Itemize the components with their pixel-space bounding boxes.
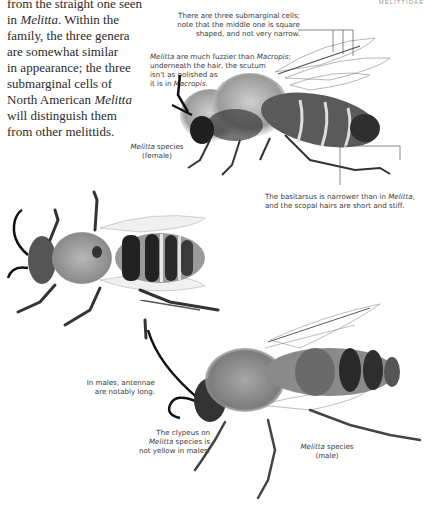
text-segment: from the straight one seen <box>7 0 142 11</box>
body-paragraph-text: from the straight one seenin Melitta. Wi… <box>7 0 147 140</box>
text-line: will distinguish them <box>7 108 147 124</box>
text-line: family, the three genera <box>7 28 147 44</box>
italic-taxon: Melitta <box>388 192 412 201</box>
leader-lines-wing <box>298 30 353 56</box>
female-bee-side-view <box>150 20 424 190</box>
text-segment: in appearance; the three <box>7 60 131 75</box>
annotation-line: In males, antennae <box>40 378 155 387</box>
text-segment: in <box>7 12 20 27</box>
text-segment: will distinguish them <box>7 108 117 123</box>
italic-taxon: Melitta <box>94 92 132 107</box>
annotation-line: There are three submarginal cells; <box>150 11 300 20</box>
text-segment: , <box>413 192 415 201</box>
male-bee-side-view <box>140 300 424 505</box>
text-segment: from other melittids. <box>7 124 114 139</box>
text-segment: . Within the <box>58 12 119 27</box>
annotation-line: are notably long. <box>40 387 155 396</box>
text-line: and the scopal hairs are short and stiff… <box>265 201 415 210</box>
text-line: in Melitta. Within the <box>7 12 147 28</box>
book-page: MELITTIDAE from the straight one seenin … <box>0 0 424 505</box>
annotation-male-antennae: In males, antennae are notably long. <box>40 378 155 396</box>
text-segment: are somewhat similar <box>7 44 118 59</box>
text-line: North American Melitta <box>7 92 147 108</box>
italic-taxon: Melitta <box>20 12 58 27</box>
leader-lines-basitarsus <box>340 146 400 185</box>
text-line: in appearance; the three <box>7 60 147 76</box>
text-segment: North American <box>7 92 94 107</box>
body-paragraph: from the straight one seenin Melitta. Wi… <box>7 0 147 140</box>
text-line: are somewhat similar <box>7 44 147 60</box>
text-segment: The basitarsus is narrower than in <box>265 192 388 201</box>
text-line: submarginal cells of <box>7 76 147 92</box>
text-segment: and the scopal hairs are short and stiff… <box>265 201 405 210</box>
annotation-basitarsus: The basitarsus is narrower than in Melit… <box>265 192 415 210</box>
text-segment: family, the three genera <box>7 28 130 43</box>
text-line: from the straight one seen <box>7 0 147 12</box>
text-line: from other melittids. <box>7 124 147 140</box>
text-line: The basitarsus is narrower than in Melit… <box>265 192 415 201</box>
running-head: MELITTIDAE <box>354 0 424 6</box>
text-segment: submarginal cells of <box>7 76 112 91</box>
